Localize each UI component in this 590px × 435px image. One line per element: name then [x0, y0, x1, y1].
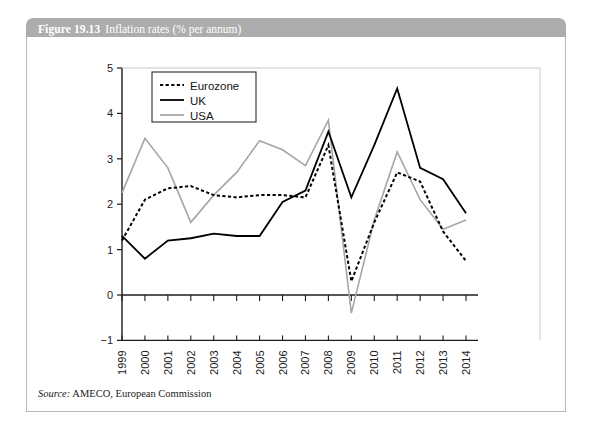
legend-label-uk: UK: [190, 95, 206, 107]
x-axis-tick-label: 2003: [208, 350, 220, 374]
y-axis-tick-label: 0: [107, 289, 113, 301]
x-axis-tick-label: 2013: [437, 350, 449, 374]
x-axis-tick-label: 2010: [368, 350, 380, 374]
x-axis-tick-label: 2014: [460, 350, 472, 374]
x-axis-tick-label: 2002: [185, 350, 197, 374]
x-axis-tick-label: 2012: [414, 350, 426, 374]
source-label: Source:: [38, 388, 70, 399]
x-axis-tick-label: 2011: [391, 350, 403, 374]
inflation-line-chart: −101234519992000200120022003200420052006…: [0, 0, 590, 435]
x-axis-tick-label: 2000: [139, 350, 151, 374]
legend-label-eurozone: Eurozone: [190, 80, 239, 92]
legend-label-usa: USA: [190, 110, 214, 122]
x-axis-tick-label: 2001: [162, 350, 174, 374]
y-axis-tick-label: 1: [107, 244, 113, 256]
y-axis-tick-label: 5: [107, 62, 113, 74]
x-axis-tick-label: 2008: [322, 350, 334, 374]
y-axis-tick-label: −1: [100, 334, 113, 346]
x-axis-tick-label: 2006: [277, 350, 289, 374]
y-axis-tick-label: 2: [107, 198, 113, 210]
source-note: Source: AMECO, European Commission: [38, 388, 211, 399]
x-axis-tick-label: 2009: [345, 350, 357, 374]
y-axis-tick-label: 4: [107, 107, 113, 119]
series-line-eurozone: [122, 145, 466, 281]
x-axis-tick-label: 1999: [116, 350, 128, 374]
source-text: AMECO, European Commission: [72, 388, 211, 399]
x-axis-tick-label: 2005: [254, 350, 266, 374]
figure-container: Figure 19.13Inflation rates (% per annum…: [0, 0, 590, 435]
y-axis-tick-label: 3: [107, 153, 113, 165]
x-axis-tick-label: 2007: [299, 350, 311, 374]
x-axis-tick-label: 2004: [231, 350, 243, 374]
